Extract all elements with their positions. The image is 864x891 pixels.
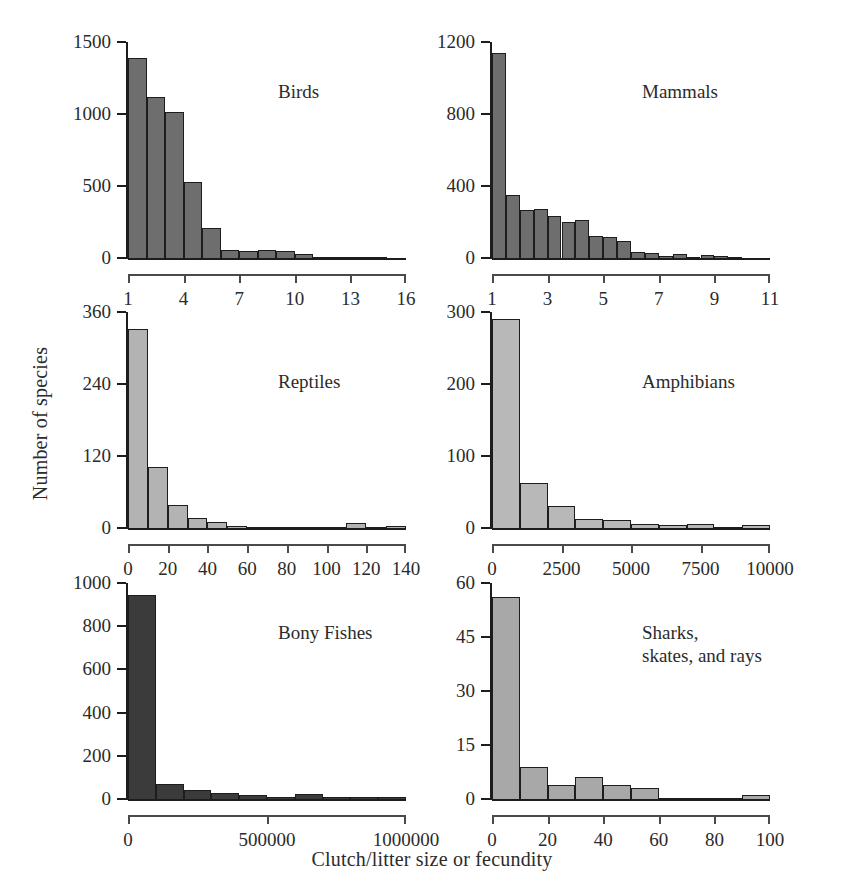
histogram-bar bbox=[165, 112, 184, 258]
histogram-bar bbox=[184, 182, 203, 258]
histogram-bar bbox=[239, 251, 258, 258]
histogram-bar bbox=[617, 241, 631, 258]
histogram-bar bbox=[548, 785, 576, 799]
histogram-bar bbox=[575, 519, 603, 528]
histogram-bar bbox=[575, 777, 603, 799]
histogram-bar bbox=[548, 216, 562, 258]
plot-area bbox=[128, 583, 406, 799]
x-axis-tick-label: 80 bbox=[705, 829, 724, 851]
x-axis-tick bbox=[701, 544, 703, 553]
x-axis-tick bbox=[404, 544, 406, 553]
x-axis-tick-label: 2500 bbox=[543, 558, 581, 580]
x-axis-tick bbox=[128, 544, 130, 553]
y-axis-tick-label: 30 bbox=[391, 680, 475, 702]
x-axis-tick bbox=[768, 274, 770, 283]
x-axis-tick bbox=[492, 815, 494, 824]
x-axis-line bbox=[492, 815, 770, 817]
y-axis-tick-label: 1000 bbox=[27, 103, 111, 125]
y-axis-tick-label: 240 bbox=[27, 373, 111, 395]
x-axis-tick-label: 5000 bbox=[612, 558, 650, 580]
zero-baseline bbox=[492, 528, 770, 530]
x-axis-tick-label: 0 bbox=[487, 558, 497, 580]
x-axis-tick bbox=[659, 274, 661, 283]
x-axis-tick-label: 5 bbox=[598, 288, 608, 310]
x-axis-tick-label: 20 bbox=[538, 829, 557, 851]
zero-baseline bbox=[128, 799, 406, 801]
histogram-bar bbox=[492, 597, 520, 799]
histogram-bar bbox=[156, 784, 184, 799]
histogram-bar bbox=[221, 250, 240, 258]
x-axis-tick bbox=[267, 815, 269, 824]
x-axis-tick-label: 60 bbox=[238, 558, 257, 580]
panel-mammals: Mammals040080012001357911 bbox=[492, 42, 770, 258]
x-axis-tick bbox=[562, 544, 564, 553]
x-axis-tick bbox=[327, 544, 329, 553]
x-axis-tick bbox=[295, 274, 297, 283]
x-axis-tick-label: 80 bbox=[277, 558, 296, 580]
x-axis-tick bbox=[128, 815, 130, 824]
y-axis-tick bbox=[117, 455, 126, 457]
histogram-bar bbox=[492, 53, 506, 258]
histogram-bar bbox=[562, 222, 576, 258]
y-axis-tick bbox=[117, 668, 126, 670]
x-axis-tick bbox=[184, 274, 186, 283]
y-axis-tick-label: 1500 bbox=[27, 31, 111, 53]
histogram-bar bbox=[603, 237, 617, 258]
y-axis-tick bbox=[481, 311, 490, 313]
y-axis-tick-label: 500 bbox=[27, 175, 111, 197]
x-axis-tick-label: 60 bbox=[649, 829, 668, 851]
plot-area bbox=[492, 42, 770, 258]
histogram-bar bbox=[492, 319, 520, 528]
zero-baseline bbox=[492, 799, 770, 801]
histogram-bar bbox=[548, 506, 576, 528]
y-axis-tick-label: 60 bbox=[391, 572, 475, 594]
y-axis-tick-label: 1000 bbox=[27, 572, 111, 594]
x-axis-tick-label: 0 bbox=[123, 829, 133, 851]
histogram-bar bbox=[575, 220, 589, 258]
histogram-bar bbox=[603, 785, 631, 799]
y-axis-tick bbox=[481, 383, 490, 385]
histogram-bar bbox=[520, 210, 534, 258]
x-axis-tick bbox=[168, 544, 170, 553]
x-axis-tick-label: 0 bbox=[123, 558, 133, 580]
plot-area bbox=[492, 312, 770, 528]
histogram-bar bbox=[258, 250, 277, 258]
x-axis-tick bbox=[207, 544, 209, 553]
plot-area bbox=[128, 312, 406, 528]
y-axis-line bbox=[490, 312, 492, 529]
x-axis-tick-label: 40 bbox=[594, 829, 613, 851]
x-axis-tick-label: 40 bbox=[198, 558, 217, 580]
x-axis-tick-label: 500000 bbox=[239, 829, 296, 851]
x-axis-tick bbox=[492, 274, 494, 283]
zero-baseline bbox=[128, 258, 406, 260]
x-axis-tick bbox=[287, 544, 289, 553]
histogram-bar bbox=[128, 595, 156, 799]
y-axis-tick bbox=[481, 582, 490, 584]
plot-area bbox=[128, 42, 406, 258]
x-axis-tick bbox=[768, 544, 770, 553]
histogram-bar bbox=[202, 228, 221, 258]
y-axis-tick bbox=[481, 744, 490, 746]
y-axis-tick bbox=[481, 185, 490, 187]
x-axis-title: Clutch/litter size or fecundity bbox=[0, 848, 864, 871]
y-axis-line bbox=[126, 312, 128, 529]
bar-series bbox=[492, 42, 770, 258]
x-axis-tick bbox=[128, 274, 130, 283]
panel-birds: Birds050010001500147101316 bbox=[128, 42, 406, 258]
bar-series bbox=[128, 42, 406, 258]
histogram-bar bbox=[589, 236, 603, 258]
histogram-bar bbox=[147, 97, 166, 258]
x-axis-tick-label: 7500 bbox=[682, 558, 720, 580]
x-axis-tick-label: 100 bbox=[756, 829, 785, 851]
zero-baseline bbox=[128, 528, 406, 530]
y-axis-tick bbox=[117, 625, 126, 627]
y-axis-tick-label: 200 bbox=[27, 745, 111, 767]
y-axis-tick bbox=[481, 798, 490, 800]
y-axis-tick bbox=[117, 383, 126, 385]
bar-series bbox=[128, 583, 406, 799]
histogram-bar bbox=[168, 505, 188, 528]
y-axis-tick bbox=[117, 113, 126, 115]
y-axis-tick-label: 0 bbox=[27, 247, 111, 269]
y-axis-tick bbox=[481, 636, 490, 638]
y-axis-tick bbox=[117, 257, 126, 259]
